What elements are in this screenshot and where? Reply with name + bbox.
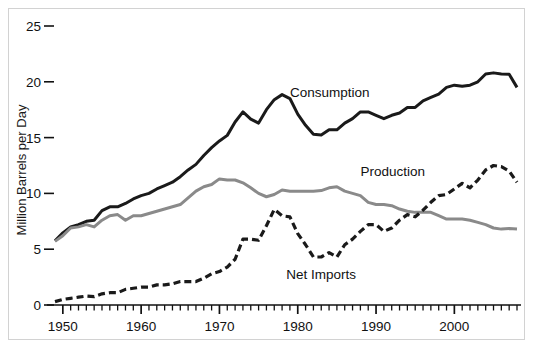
y-tick-label: 0 — [33, 298, 41, 313]
y-tick-label: 10 — [26, 186, 41, 201]
series-label-consumption: Consumption — [290, 85, 370, 100]
x-tick-label: 1970 — [204, 319, 234, 334]
y-tick-label: 20 — [26, 75, 41, 90]
series-label-net-imports: Net Imports — [286, 267, 356, 282]
y-tick-label: 25 — [26, 19, 41, 34]
y-tick-label: 15 — [26, 131, 41, 146]
x-tick-label: 1980 — [283, 319, 313, 334]
x-tick-label: 1990 — [361, 319, 391, 334]
y-axis-ticks: 0510152025 — [26, 19, 54, 313]
x-axis-ticks: 195019601970198019902000 — [48, 305, 517, 334]
x-tick-label: 2000 — [439, 319, 469, 334]
y-tick-label: 5 — [33, 242, 41, 257]
chart-plot-area: Million Barrels per Day 0510152025 19501… — [0, 0, 533, 348]
x-tick-label: 1960 — [126, 319, 156, 334]
chart-figure: Million Barrels per Day 0510152025 19501… — [0, 0, 533, 348]
series-label-production: Production — [360, 164, 425, 179]
y-axis-title: Million Barrels per Day — [14, 104, 29, 235]
series-line-production — [55, 179, 517, 241]
x-tick-label: 1950 — [48, 319, 78, 334]
